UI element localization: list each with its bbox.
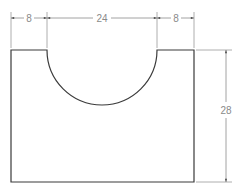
dim-right-flat: 8 [173, 13, 179, 24]
right-extension-lines [196, 50, 232, 182]
dim-height: 28 [220, 105, 232, 116]
drawing-canvas: 8 24 8 28 [0, 0, 246, 191]
part-outline [11, 50, 194, 182]
dim-cutout-width: 24 [96, 13, 108, 24]
dim-left-flat: 8 [26, 13, 32, 24]
